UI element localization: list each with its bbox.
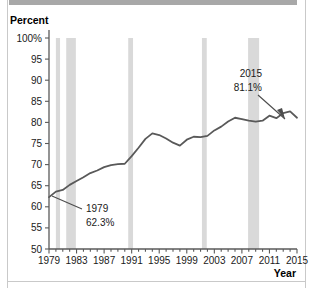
x-tick-label: 2011 bbox=[259, 255, 281, 266]
data-series-line bbox=[49, 111, 297, 197]
end-annotation-value: 81.1% bbox=[234, 82, 262, 93]
end-annotation-leader bbox=[258, 95, 285, 119]
y-tick-label: 50 bbox=[31, 244, 43, 255]
y-tick-label: 55 bbox=[31, 222, 43, 233]
x-tick-label: 1987 bbox=[93, 255, 116, 266]
x-tick-label: 1983 bbox=[65, 255, 88, 266]
y-tick-label: 70 bbox=[31, 159, 43, 170]
x-tick-label: 1979 bbox=[38, 255, 61, 266]
x-tick-label: 1995 bbox=[148, 255, 171, 266]
x-tick-label: 1991 bbox=[121, 255, 144, 266]
recession-band bbox=[128, 38, 133, 249]
data-line bbox=[49, 111, 297, 197]
x-tick-label: 1999 bbox=[176, 255, 199, 266]
x-tick-label: 2003 bbox=[203, 255, 226, 266]
y-tick-label: 65 bbox=[31, 180, 43, 191]
y-tick-label: 90 bbox=[31, 75, 43, 86]
recession-band bbox=[66, 38, 76, 249]
recession-band bbox=[202, 38, 207, 249]
y-tick-label: 60 bbox=[31, 201, 43, 212]
y-tick-label: 80 bbox=[31, 117, 43, 128]
start-annotation-value: 62.3% bbox=[86, 217, 114, 228]
y-axis-tick-labels: 50556065707580859095100% bbox=[16, 33, 42, 255]
y-tick-label: 95 bbox=[31, 54, 43, 65]
y-axis-title: Percent bbox=[10, 14, 49, 26]
line-chart: 50556065707580859095100% 197919831987199… bbox=[0, 0, 313, 288]
recession-band bbox=[56, 38, 60, 249]
x-axis-tick-labels: 1979198319871991199519992003200720112015 bbox=[38, 255, 309, 266]
end-annotation-year: 2015 bbox=[240, 68, 263, 79]
y-tick-label: 85 bbox=[31, 96, 43, 107]
start-annotation-year: 1979 bbox=[86, 203, 109, 214]
y-tick-label: 75 bbox=[31, 138, 43, 149]
y-tick-label: 100% bbox=[16, 33, 42, 44]
x-tick-label: 2007 bbox=[231, 255, 254, 266]
x-tick-label: 2015 bbox=[286, 255, 309, 266]
x-axis-title: Year bbox=[274, 267, 296, 279]
chart-figure: 50556065707580859095100% 197919831987199… bbox=[0, 0, 313, 288]
